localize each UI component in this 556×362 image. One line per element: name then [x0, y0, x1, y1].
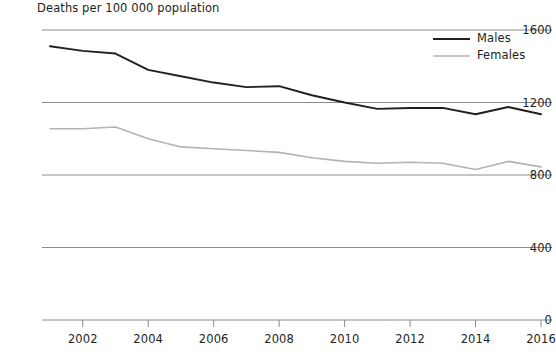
y-axis-tick-label: 1200: [514, 96, 552, 110]
y-axis-tick-label: 1600: [514, 23, 552, 37]
x-tickmark-group: [83, 320, 541, 327]
x-axis-tick-label: 2008: [264, 332, 294, 346]
legend-swatch-group: [433, 39, 470, 56]
x-axis-tick-label: 2004: [133, 332, 163, 346]
x-axis-tick-label: 2012: [395, 332, 425, 346]
y-axis-tick-label: 800: [514, 168, 552, 182]
legend-label-males: Males: [477, 31, 511, 45]
gridline-group: [42, 30, 552, 320]
x-axis-tick-label: 2002: [68, 332, 98, 346]
x-axis-tick-label: 2006: [199, 332, 229, 346]
x-axis-tick-label: 2010: [330, 332, 360, 346]
series-line-females: [50, 127, 541, 170]
legend-label-females: Females: [477, 48, 525, 62]
y-axis-tick-label: 400: [514, 241, 552, 255]
data-series-group: [50, 46, 541, 169]
x-axis-tick-label: 2014: [461, 332, 491, 346]
x-axis-tick-label: 2016: [526, 332, 556, 346]
y-axis-tick-label: 0: [514, 313, 552, 327]
